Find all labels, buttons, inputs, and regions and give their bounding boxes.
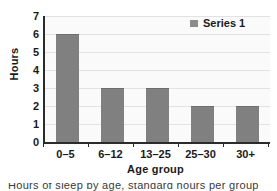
legend-label: Series 1 xyxy=(203,17,245,29)
y-axis-tick-label: 1 xyxy=(22,119,39,129)
legend-swatch-icon xyxy=(190,20,198,27)
chart-legend: Series 1 xyxy=(190,17,245,29)
y-axis-tick-label: 0 xyxy=(22,137,39,147)
x-axis-tick-label: 13–25 xyxy=(133,148,178,160)
x-axis-tick-mark xyxy=(133,142,134,147)
bar-chart-figure: Hours 76543210 0–56–1213–2525–3030+ Age … xyxy=(0,0,277,191)
y-axis-tick-label: 2 xyxy=(22,101,39,111)
x-axis-tick-mark xyxy=(43,142,44,147)
bar-25–30 xyxy=(191,106,214,142)
figure-caption-cropped: Hours of sleep by age, standard hours pe… xyxy=(0,183,277,191)
bar-13–25 xyxy=(146,88,169,142)
x-axis-tick-marks xyxy=(43,142,270,147)
bar-slot xyxy=(225,16,270,142)
y-axis-tick-label: 4 xyxy=(22,65,39,75)
y-axis-title: Hours xyxy=(8,29,20,99)
y-axis-tick-label: 7 xyxy=(22,11,39,21)
x-axis-tick-label: 6–12 xyxy=(88,148,133,160)
x-axis-title: Age group xyxy=(43,163,268,175)
x-axis-tick-label: 25–30 xyxy=(178,148,223,160)
bar-30+ xyxy=(236,106,259,142)
x-axis-tick-mark xyxy=(178,142,179,147)
bar-slot xyxy=(180,16,225,142)
x-axis-tick-mark xyxy=(268,142,269,147)
bar-slot xyxy=(135,16,180,142)
x-axis-tick-labels: 0–56–1213–2525–3030+ xyxy=(43,148,268,160)
bar-slot xyxy=(90,16,135,142)
x-axis-tick-mark xyxy=(223,142,224,147)
bar-series xyxy=(45,16,270,142)
bar-0–5 xyxy=(56,34,79,142)
y-axis-tick-label: 6 xyxy=(22,29,39,39)
plot-area xyxy=(43,16,270,144)
bar-slot xyxy=(45,16,90,142)
figure-caption-text: Hours of sleep by age, standard hours pe… xyxy=(8,183,259,191)
y-axis-tick-label: 3 xyxy=(22,83,39,93)
y-axis-tick-labels: 76543210 xyxy=(22,16,39,142)
x-axis-tick-label: 30+ xyxy=(223,148,268,160)
x-axis-tick-mark xyxy=(88,142,89,147)
y-axis-tick-label: 5 xyxy=(22,47,39,57)
bar-6–12 xyxy=(101,88,124,142)
x-axis-tick-label: 0–5 xyxy=(43,148,88,160)
